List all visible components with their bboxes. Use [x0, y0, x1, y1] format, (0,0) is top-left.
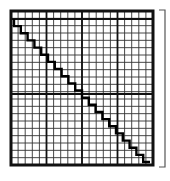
- grid-staircase-diagram: [0, 0, 170, 181]
